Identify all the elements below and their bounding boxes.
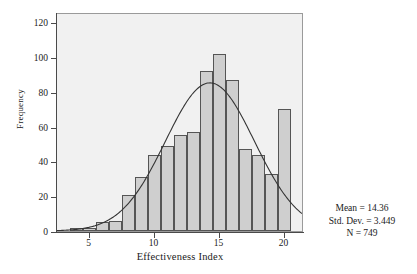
x-axis-tick-label: 20 [269,238,299,249]
x-axis-tick-label: 5 [74,238,104,249]
mean-label: Mean = 14.36 [312,202,412,215]
x-axis-title: Effectiveness Index [56,251,304,262]
y-axis-tick-label: 60 [39,123,49,133]
y-axis-tick-label: 80 [39,88,49,98]
std-dev-label: Std. Dev. = 3.449 [312,215,412,228]
y-axis-tick [51,93,56,94]
histogram-figure: 020406080100120 5101520 Frequency Effect… [0,0,417,274]
x-axis-line [56,232,304,233]
y-axis-title: Frequency [15,69,25,149]
statistics-annotation: Mean = 14.36 Std. Dev. = 3.449 N = 749 [312,202,412,240]
sample-size-label: N = 749 [312,227,412,240]
y-axis-tick [51,162,56,163]
y-axis-line [56,13,57,233]
y-axis-tick-label: 100 [34,53,48,63]
y-axis-tick-label: 40 [39,157,49,167]
y-axis-tick-label: 0 [43,227,48,237]
y-axis-tick [51,128,56,129]
x-axis-tick-label: 10 [139,238,169,249]
normal-distribution-curve [57,14,302,231]
y-axis-tick-label: 120 [34,18,48,28]
plot-area [56,13,303,232]
y-axis-tick-label: 20 [39,192,49,202]
y-axis-tick [51,58,56,59]
x-axis-tick-label: 15 [204,238,234,249]
y-axis-tick [51,232,56,233]
y-axis-tick [51,197,56,198]
y-axis-tick [51,23,56,24]
